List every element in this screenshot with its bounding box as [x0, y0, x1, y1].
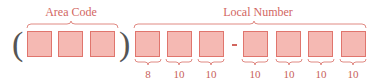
local-digit-box — [276, 31, 301, 57]
digit-brace-4 — [242, 59, 268, 65]
digit-choice-count: 10 — [316, 69, 327, 80]
digit-brace-5 — [276, 59, 302, 65]
digit-choice-count: 10 — [206, 69, 217, 80]
digit-choice-count: 10 — [348, 69, 359, 80]
open-parenthesis: ( — [12, 27, 23, 61]
local-digit-box — [308, 31, 333, 57]
digit-choice-count: 10 — [284, 69, 295, 80]
area-code-digit-box — [58, 31, 83, 57]
local-digit-box — [243, 31, 268, 57]
local-number-brace — [134, 21, 366, 28]
digit-brace-6 — [308, 59, 334, 65]
close-parenthesis: ) — [119, 27, 130, 61]
local-digit-box — [167, 31, 192, 57]
digit-choice-count: 8 — [145, 69, 151, 80]
separator-dash — [232, 44, 237, 46]
local-digit-box — [199, 31, 224, 57]
digit-brace-1 — [135, 59, 161, 65]
area-code-digit-box — [27, 31, 52, 57]
digit-brace-3 — [198, 59, 224, 65]
area-code-brace — [27, 21, 118, 28]
digit-brace-2 — [166, 59, 192, 65]
local-digit-box — [135, 31, 160, 57]
digit-choice-count: 10 — [250, 69, 261, 80]
area-code-digit-box — [90, 31, 115, 57]
digit-brace-7 — [340, 59, 366, 65]
digit-choice-count: 10 — [174, 69, 185, 80]
local-digit-box — [341, 31, 366, 57]
